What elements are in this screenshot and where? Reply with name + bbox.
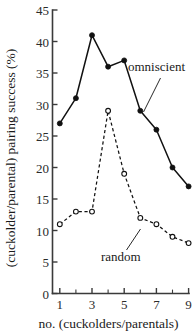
y-tick-label-25: 25 xyxy=(36,129,49,144)
data-point xyxy=(154,127,159,132)
series-omniscient-markers xyxy=(57,33,191,189)
y-tick-label-40: 40 xyxy=(36,35,49,50)
data-point xyxy=(154,222,159,227)
annotation-omniscient: omniscient xyxy=(128,59,185,74)
data-point xyxy=(73,96,78,101)
data-point xyxy=(106,64,111,69)
series-random-markers xyxy=(57,108,191,245)
series-omniscient xyxy=(57,33,191,189)
y-axis: 45 40 35 30 25 20 15 10 5 0 xyxy=(36,3,58,302)
x-axis: 1 3 5 7 9 xyxy=(53,288,192,312)
y-axis-title: (cuckolder/parental) pairing success (%) xyxy=(3,0,19,318)
data-point xyxy=(57,222,62,227)
y-tick-label-15: 15 xyxy=(36,192,49,207)
data-point xyxy=(186,241,191,246)
y-tick-label-30: 30 xyxy=(36,98,49,113)
series-random-line xyxy=(60,111,189,243)
series-random xyxy=(57,108,191,245)
y-tick-label-45: 45 xyxy=(36,3,49,18)
data-point xyxy=(170,165,175,170)
y-tick-label-5: 5 xyxy=(43,255,50,270)
x-tick-label-9: 9 xyxy=(185,297,192,312)
x-axis-ticks xyxy=(60,288,189,294)
data-point xyxy=(106,108,111,113)
data-point xyxy=(122,171,127,176)
x-tick-label-5: 5 xyxy=(121,297,128,312)
y-tick-label-20: 20 xyxy=(36,161,49,176)
data-point xyxy=(138,216,143,221)
data-point xyxy=(122,58,127,63)
data-point xyxy=(170,234,175,239)
data-point xyxy=(186,184,191,189)
random-leader-line xyxy=(127,229,141,250)
data-point xyxy=(138,108,143,113)
data-point xyxy=(90,33,95,38)
data-point xyxy=(90,209,95,214)
x-tick-label-1: 1 xyxy=(57,297,64,312)
chart-plot-area: 45 40 35 30 25 20 15 10 5 0 xyxy=(0,0,195,331)
x-axis-title: no. (cuckolders/parentals) xyxy=(22,316,195,331)
y-tick-label-35: 35 xyxy=(36,66,49,81)
y-tick-label-10: 10 xyxy=(36,224,49,239)
data-point xyxy=(74,209,79,214)
x-tick-label-7: 7 xyxy=(153,297,160,312)
x-tick-label-3: 3 xyxy=(89,297,96,312)
annotation-random: random xyxy=(101,249,141,264)
omniscient-leader-line xyxy=(144,78,161,112)
data-point xyxy=(57,121,62,126)
y-tick-label-0: 0 xyxy=(43,287,50,302)
chart-figure: 45 40 35 30 25 20 15 10 5 0 xyxy=(0,0,195,331)
